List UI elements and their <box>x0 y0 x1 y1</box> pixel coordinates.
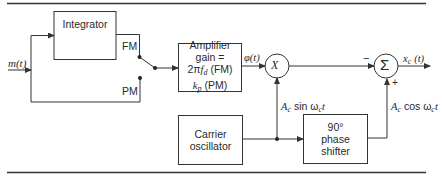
summer-plus-label: + <box>392 78 398 88</box>
fm-label: FM <box>122 41 137 52</box>
cos-carrier-line <box>368 79 388 138</box>
amplifier-line-3: 2πfd (FM) <box>187 63 232 79</box>
switch-blade <box>140 57 156 68</box>
amplifier-label: Amplifier gain = 2πfd (FM) kp (PM) <box>178 43 242 91</box>
phase-shifter-line-1: 90° <box>328 121 344 133</box>
integrator-text: Integrator <box>63 18 108 30</box>
output-label: xc (t) <box>403 53 424 66</box>
input-label: m(t) <box>8 58 26 69</box>
fm-contact-dot <box>138 55 142 59</box>
phase-shifter-label: 90° phase shifter <box>303 114 368 164</box>
multiplier-symbol: X <box>271 59 278 71</box>
carrier-line-2: oscillator <box>190 140 231 152</box>
switch-pivot-dot <box>153 66 157 70</box>
summer-symbol: Σ <box>380 57 389 72</box>
phi-label: φ(t) <box>244 53 260 64</box>
phase-shifter-line-3: shifter <box>321 145 350 157</box>
pm-contact-dot <box>138 76 142 80</box>
amplifier-line-2: gain = <box>196 51 225 63</box>
carrier-label: Carrier oscillator <box>178 115 243 165</box>
carrier-line-1: Carrier <box>194 128 226 140</box>
pm-label: PM <box>122 86 138 97</box>
amplifier-line-4: kp (PM) <box>193 79 227 95</box>
sin-carrier-label: Ac sin ωct <box>281 101 325 114</box>
integrator-label: Integrator <box>54 11 116 37</box>
phase-shifter-line-2: phase <box>321 133 350 145</box>
summer-minus-label: − <box>363 53 369 64</box>
cos-carrier-label: Ac cos ωct <box>391 101 438 114</box>
amplifier-line-1: Amplifier <box>190 39 231 51</box>
carrier-junction-dot <box>275 137 279 141</box>
